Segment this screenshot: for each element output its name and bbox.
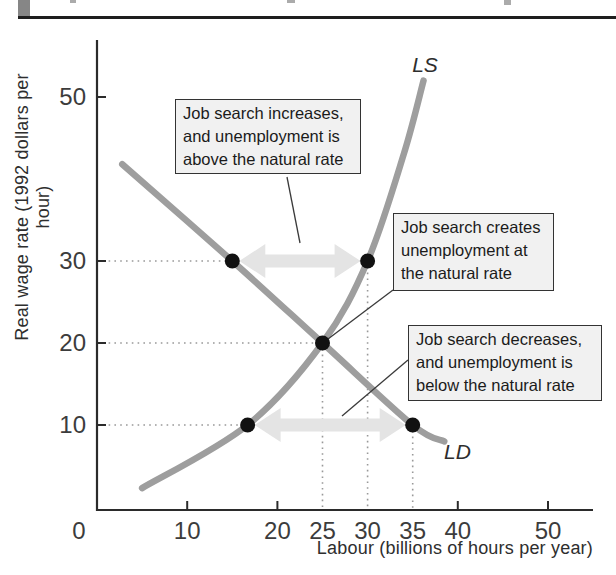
annotation-line: the natural rate [401, 262, 546, 285]
annotation-unemployment-above-natural-rate: Job search increases, and unemployment i… [175, 99, 361, 174]
annotation-unemployment-at-natural-rate: Job search creates unemployment at the n… [393, 213, 554, 291]
annotation-line: and unemployment is [416, 351, 594, 374]
y-tick-label-10: 10 [59, 411, 86, 438]
y-tick-label-20: 20 [59, 329, 86, 356]
data-dot-L30-W30 [360, 254, 375, 269]
annotation-line: unemployment at [401, 239, 546, 262]
annotation-line: and unemployment is [183, 125, 353, 148]
data-dot-L15-W30 [225, 254, 240, 269]
annotation-line: above the natural rate [183, 148, 353, 171]
labour-market-figure: 10203050102040502530350LSLD Real wage ra… [0, 0, 616, 575]
annotation-line: Job search creates [401, 216, 546, 239]
y-tick-label-50: 50 [59, 83, 86, 110]
x-tick-label-20: 20 [264, 517, 291, 544]
annotation-line: below the natural rate [416, 374, 594, 397]
y-axis-title: Real wage rate (1992 dollars per hour) [12, 51, 54, 363]
labour-demand-curve [122, 164, 444, 441]
ld-curve-label: LD [444, 440, 471, 463]
job-search-double-arrow-30 [239, 244, 360, 278]
data-dot-L35-W10 [405, 418, 420, 433]
origin-label: 0 [72, 517, 85, 544]
x-axis-title: Labour (billions of hours per year) [317, 538, 593, 559]
data-dot-L16.7-W10 [240, 418, 255, 433]
annotation-line: Job search increases, [183, 102, 353, 125]
ls-curve-label: LS [412, 53, 438, 76]
annotation-line: Job search decreases, [416, 328, 594, 351]
leader-to-upper-arrow [287, 177, 300, 243]
x-tick-label-10: 10 [174, 517, 201, 544]
job-search-double-arrow-10 [255, 408, 406, 442]
data-dot-L25-W20 [315, 336, 330, 351]
y-tick-label-30: 30 [59, 247, 86, 274]
annotation-unemployment-below-natural-rate: Job search decreases, and unemployment i… [408, 325, 602, 401]
